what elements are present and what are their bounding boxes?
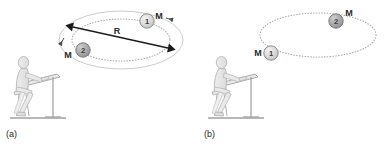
ball-2-a: 2 (76, 43, 90, 57)
observer-a (10, 57, 66, 119)
mass-label-b-1: M (254, 48, 262, 58)
panel-caption-a: (a) (6, 129, 17, 139)
ball-2-b-number: 2 (334, 17, 338, 26)
person-a (14, 57, 49, 117)
radius-label-a: R (114, 26, 121, 36)
ball-1-b-number: 1 (269, 49, 273, 58)
figure-root: R 1 M 2 M (0, 0, 389, 150)
direction-arrow-a-2 (60, 38, 64, 45)
mass-label-a-2: M (64, 50, 72, 60)
direction-arrow-a-1 (166, 18, 173, 20)
ball-1-a: 1 (140, 14, 154, 28)
ball-2-b: 2 (329, 14, 343, 28)
ball-1-a-number: 1 (145, 17, 149, 26)
ball-1-b: 1 (264, 46, 278, 60)
panel-caption-b: (b) (204, 129, 215, 139)
panel-a: R 1 M 2 M (6, 11, 183, 139)
panel-b: 1 M 2 M (204, 8, 376, 139)
person-b (212, 57, 247, 117)
mass-label-b-2: M (345, 8, 353, 18)
observer-b (208, 57, 264, 119)
mass-label-a-1: M (155, 11, 163, 21)
figure-canvas: R 1 M 2 M (0, 0, 389, 150)
ball-2-a-number: 2 (81, 46, 85, 55)
orbit-outer-ellipse-a (59, 11, 183, 69)
